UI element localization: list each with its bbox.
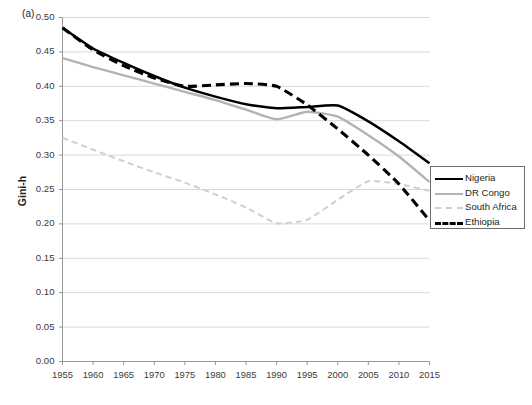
axis-tick-marks	[59, 18, 430, 366]
legend-swatch-nigeria	[435, 178, 463, 180]
legend-item-dr-congo[interactable]: DR Congo	[431, 186, 526, 201]
series-line-south-africa	[63, 138, 430, 224]
chart-legend: NigeriaDR CongoSouth AfricaEthiopia	[430, 166, 525, 229]
grid-lines	[63, 18, 430, 328]
series-line-nigeria	[63, 28, 430, 164]
legend-swatch-south-africa	[435, 207, 463, 209]
legend-label: Ethiopia	[465, 216, 500, 227]
legend-swatch-dr-congo	[435, 193, 463, 195]
legend-item-ethiopia[interactable]: Ethiopia	[431, 215, 526, 230]
figure-container: (a) Gini-h 0.000.050.100.150.200.250.300…	[0, 0, 532, 405]
series-line-dr-congo	[63, 58, 430, 182]
data-series-group	[63, 28, 430, 224]
legend-label: DR Congo	[465, 187, 510, 198]
legend-item-south-africa[interactable]: South Africa	[431, 200, 526, 215]
legend-label: Nigeria	[465, 172, 495, 183]
legend-label: South Africa	[465, 201, 517, 212]
legend-swatch-ethiopia	[435, 222, 463, 225]
legend-item-nigeria[interactable]: Nigeria	[431, 171, 526, 186]
